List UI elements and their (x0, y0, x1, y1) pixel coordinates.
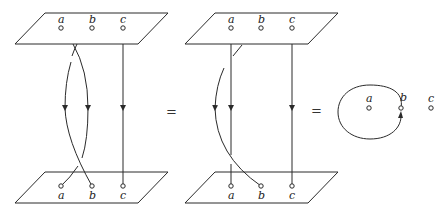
equals-sign-1: = (166, 104, 177, 119)
bottom-point-c (290, 184, 294, 188)
point-b (399, 106, 403, 110)
bottom-label-b: b (258, 189, 265, 202)
point-a (367, 106, 371, 110)
label-a: a (366, 92, 373, 105)
strand-b-lower (215, 108, 261, 186)
strand-b-stub (233, 45, 242, 56)
label-a: a (58, 13, 65, 26)
bottom-label-a: a (58, 189, 65, 202)
bottom-point-a (59, 184, 63, 188)
bottom-label-c: c (289, 189, 295, 202)
braid-diagram: a b c a b c = a b c (0, 0, 446, 215)
equals-sign-2: = (311, 103, 322, 118)
point-a (229, 26, 233, 30)
bottom-point-c (121, 184, 125, 188)
point-c (290, 26, 294, 30)
point-c (121, 26, 125, 30)
point-b (90, 26, 94, 30)
label-a: a (228, 13, 235, 26)
point-c (429, 106, 433, 110)
left-panel: a b c a b c (15, 13, 168, 203)
strand-b-loop (215, 68, 224, 108)
bottom-label-b: b (89, 189, 96, 202)
label-b: b (89, 13, 96, 26)
label-c: c (428, 92, 434, 105)
strand-2-lower (82, 108, 88, 158)
bottom-label-c: c (120, 189, 126, 202)
point-a (59, 26, 63, 30)
point-b (259, 26, 263, 30)
label-b: b (400, 91, 407, 104)
label-c: c (120, 13, 126, 26)
label-c: c (289, 13, 295, 26)
right-panel: a b c (338, 85, 434, 139)
strand-1 (65, 62, 71, 108)
strand-2-end (61, 166, 78, 186)
bottom-point-a (229, 184, 233, 188)
label-b: b (258, 13, 265, 26)
loop-arrow-icon (398, 111, 403, 118)
bottom-label-a: a (228, 189, 235, 202)
strand-2 (73, 44, 88, 108)
bottom-point-b (90, 184, 94, 188)
bottom-point-b (259, 184, 263, 188)
